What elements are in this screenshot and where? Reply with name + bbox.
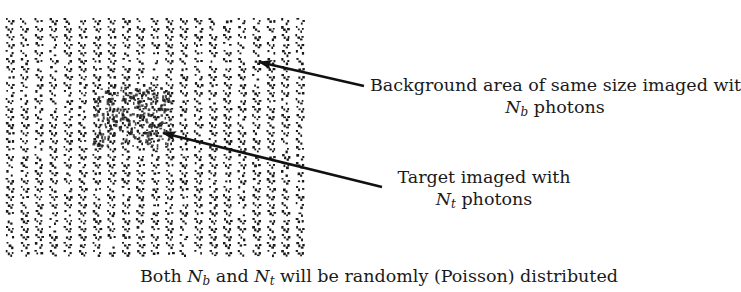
target-label: Target imaged with Nt photons	[386, 166, 582, 210]
background-area-label: Background area of same size imaged with…	[370, 74, 740, 118]
noise-pattern-image	[5, 16, 310, 260]
nt-symbol: N	[436, 189, 451, 209]
figure-caption: Both Nb and Nt will be randomly (Poisson…	[140, 265, 560, 287]
nb-symbol: N	[505, 97, 520, 117]
target-label-photons: photons	[456, 189, 532, 209]
target-label-line1: Target imaged with	[386, 166, 582, 188]
background-label-photons: photons	[528, 97, 604, 117]
caption-and: and	[210, 266, 254, 286]
caption-suffix: will be randomly (Poisson) distributed	[274, 266, 618, 286]
caption-nt-symbol: N	[254, 266, 269, 286]
background-label-line1: Background area of same size imaged with	[370, 74, 740, 96]
caption-nb-symbol: N	[187, 266, 202, 286]
caption-prefix: Both	[140, 266, 187, 286]
background-label-line2: Nb photons	[370, 96, 740, 118]
target-label-line2: Nt photons	[386, 188, 582, 210]
